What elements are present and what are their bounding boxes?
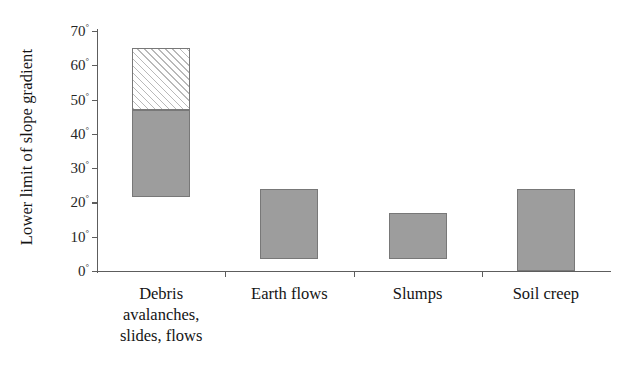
bar-segment [260, 189, 318, 259]
x-axis-separator-tick [225, 271, 226, 277]
chart-root: Lower limit of slope gradient 0°10°20°30… [0, 0, 627, 384]
x-axis-separator-tick [354, 271, 355, 277]
bar-segment [132, 110, 190, 197]
bar-segment [132, 48, 190, 110]
y-axis-tick [92, 100, 97, 101]
category-label-line: avalanches, [97, 304, 225, 325]
y-axis-tick [92, 237, 97, 238]
category-label: Slumps [354, 283, 482, 304]
category-label: Debrisavalanches,slides, flows [97, 283, 225, 346]
category-label-line: Soil creep [482, 283, 610, 304]
y-axis-tick-label: 30° [70, 160, 89, 177]
y-axis-tick [92, 202, 97, 203]
y-axis-tick-label: 0° [78, 263, 89, 280]
y-axis-tick [92, 134, 97, 135]
bar-segment [517, 189, 575, 271]
category-label: Soil creep [482, 283, 610, 304]
bar-segment [389, 213, 447, 259]
category-label: Earth flows [225, 283, 353, 304]
y-axis-tick-label: 60° [70, 57, 89, 74]
y-axis-tick-label: 50° [70, 91, 89, 108]
y-axis-tick-label: 70° [70, 23, 89, 40]
category-label-line: Slumps [354, 283, 482, 304]
y-axis-tick [92, 271, 97, 272]
x-axis-separator-tick [482, 271, 483, 277]
category-label-line: Debris [97, 283, 225, 304]
y-axis-tick [92, 65, 97, 66]
y-axis-tick-label: 40° [70, 125, 89, 142]
bar-segment-divider [132, 110, 190, 111]
y-axis-tick [92, 168, 97, 169]
category-label-line: Earth flows [225, 283, 353, 304]
plot-area: 0°10°20°30°40°50°60°70° [97, 31, 610, 271]
y-axis-line [97, 29, 98, 273]
y-axis-tick [92, 31, 97, 32]
y-axis-title: Lower limit of slope gradient [13, 2, 41, 292]
category-label-line: slides, flows [97, 325, 225, 346]
y-axis-tick-label: 20° [70, 194, 89, 211]
y-axis-tick-label: 10° [70, 228, 89, 245]
